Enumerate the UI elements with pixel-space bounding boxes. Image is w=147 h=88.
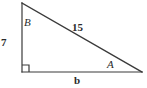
side-length-label-base: b (74, 75, 80, 86)
angle-label-b: B (24, 17, 31, 28)
triangle-hypotenuse (22, 3, 142, 72)
side-length-label-hypotenuse: 15 (72, 22, 83, 33)
side-length-label-vertical-leg: 7 (1, 37, 7, 48)
right-triangle-figure: B 7 15 A b (0, 0, 147, 88)
right-angle-marker-icon (22, 65, 29, 72)
angle-label-a: A (107, 59, 114, 70)
